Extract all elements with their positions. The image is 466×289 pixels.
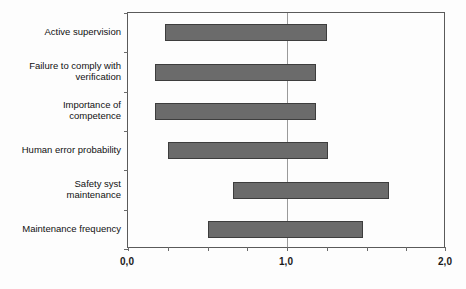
baseline-gridline: [287, 13, 288, 247]
bar-4: [168, 142, 329, 159]
category-label-3: Importance of competence: [0, 99, 121, 121]
category-label-4: Human error probability: [0, 144, 121, 155]
x-axis-label-0: 0,0: [120, 256, 134, 268]
x-axis-tick: [445, 247, 446, 251]
x-axis-tick: [406, 247, 407, 251]
x-axis-tick: [367, 247, 368, 251]
x-axis-tick: [287, 247, 288, 251]
bar-3: [155, 103, 316, 120]
x-axis-tick: [327, 247, 328, 251]
y-axis-labels: Active supervisionFailure to comply with…: [0, 12, 121, 248]
bar-6: [208, 221, 364, 238]
y-axis-tick: [124, 131, 128, 132]
x-axis-tick: [168, 247, 169, 251]
x-axis-label-2: 2,0: [438, 256, 452, 268]
x-axis-tick: [247, 247, 248, 251]
bar-2: [155, 64, 316, 81]
category-label-5: Safety syst maintenance: [0, 178, 121, 200]
y-axis-tick: [124, 13, 128, 14]
y-axis-tick: [124, 210, 128, 211]
x-axis-label-1: 1,0: [279, 256, 293, 268]
x-axis-tick-labels: 0,01,02,0: [127, 256, 445, 272]
category-label-1: Active supervision: [0, 26, 121, 37]
y-axis-tick: [124, 92, 128, 93]
x-axis-tick: [208, 247, 209, 251]
category-label-2: Failure to comply with verification: [0, 60, 121, 82]
bar-5: [233, 182, 389, 199]
x-axis-tick: [128, 247, 129, 251]
y-axis-tick: [124, 170, 128, 171]
plot-area: [127, 12, 445, 248]
category-label-6: Maintenance frequency: [0, 223, 121, 234]
tornado-chart: Active supervisionFailure to comply with…: [0, 0, 466, 289]
bar-1: [165, 24, 327, 41]
y-axis-tick: [124, 52, 128, 53]
